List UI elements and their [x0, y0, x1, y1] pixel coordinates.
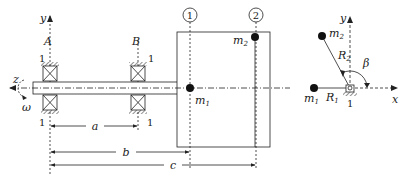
bearing-b-top-number: 1 — [148, 53, 154, 64]
hatch-icon — [343, 92, 357, 96]
left-view: y A B 1 1 — [9, 8, 290, 174]
svg-text:a: a — [92, 120, 99, 133]
svg-text:2: 2 — [253, 10, 259, 21]
y-axis-label-right: y — [339, 12, 347, 25]
plane-2-marker: 2 — [249, 8, 263, 22]
hatch-icon — [129, 62, 147, 66]
radius-r1-label: R1 — [325, 91, 339, 105]
dimension-b: b — [51, 146, 189, 159]
omega-label: ω — [22, 101, 31, 114]
dimension-a: a — [51, 120, 137, 133]
y-axis-arrow-icon — [47, 15, 53, 22]
pivot-icon — [348, 86, 352, 90]
right-view: x y m1 R1 m2 R2 β 1 — [304, 12, 399, 109]
bearing-b-label: B — [131, 35, 140, 48]
angle-beta-label: β — [362, 57, 369, 70]
rotor-balancing-diagram: y A B 1 1 — [0, 0, 404, 174]
plane-1-marker: 1 — [183, 8, 197, 22]
y-axis-label: y — [39, 12, 47, 25]
support-number: 1 — [347, 98, 353, 109]
mass-m1-label-right: m1 — [304, 92, 319, 106]
radius-r2-label: R2 — [337, 49, 351, 63]
pivot-support: 1 — [343, 85, 357, 109]
mass-m2-dot — [251, 33, 259, 41]
z-axis-label: z — [12, 73, 19, 86]
dimension-c: c — [51, 159, 255, 172]
y-axis-arrow-icon — [347, 16, 353, 23]
bearing-a-bottom-number: 1 — [39, 117, 45, 128]
bearing-a-top-number: 1 — [39, 53, 45, 64]
bearing-a-label: A — [43, 35, 52, 48]
svg-text:c: c — [170, 159, 176, 172]
mass-m1-dot-right — [310, 84, 318, 92]
x-axis-arrow-icon — [391, 85, 398, 91]
rotation-arrow-icon — [18, 80, 27, 100]
angle-beta-arrow-icon — [340, 70, 370, 88]
mass-m2-dot-right — [318, 32, 326, 40]
mass-m1-dot — [186, 84, 194, 92]
hatch-icon — [129, 110, 147, 114]
bearing-b-bottom-number: 1 — [147, 117, 153, 128]
svg-text:b: b — [122, 146, 129, 159]
x-axis-label-right: x — [392, 93, 399, 106]
mass-m2-label-right: m2 — [329, 27, 344, 41]
svg-text:1: 1 — [187, 10, 193, 21]
hatch-icon — [41, 110, 59, 114]
